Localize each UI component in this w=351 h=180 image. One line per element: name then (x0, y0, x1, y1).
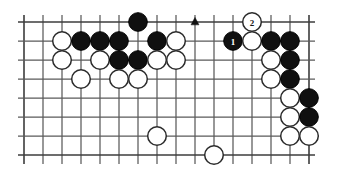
stone-white[interactable] (300, 127, 319, 146)
stone-white[interactable] (53, 51, 72, 70)
stone-white[interactable] (281, 89, 300, 108)
stone-body (300, 89, 319, 108)
stone-black[interactable] (262, 32, 281, 51)
stone-body (243, 32, 262, 51)
stone-body (167, 32, 186, 51)
stone-white[interactable] (281, 127, 300, 146)
stone-white[interactable] (148, 51, 167, 70)
stone-white[interactable] (129, 70, 148, 89)
stone-body (281, 89, 300, 108)
stone-body (281, 51, 300, 70)
stone-body (148, 32, 167, 51)
stones-layer[interactable]: 12 (53, 13, 319, 165)
stone-white[interactable] (262, 51, 281, 70)
stone-body (148, 51, 167, 70)
stone-body (129, 70, 148, 89)
stone-black[interactable] (91, 32, 110, 51)
goban-canvas[interactable]: 12 (0, 0, 351, 180)
go-board-diagram: 12 (0, 0, 351, 180)
stone-body (91, 51, 110, 70)
stone-white[interactable] (53, 32, 72, 51)
stone-move-number: 2 (250, 18, 255, 28)
stone-body (262, 70, 281, 89)
stone-white[interactable] (243, 32, 262, 51)
stone-black[interactable] (281, 70, 300, 89)
stone-body (72, 32, 91, 51)
stone-white[interactable] (148, 127, 167, 146)
stone-black[interactable] (148, 32, 167, 51)
stone-body (281, 70, 300, 89)
stone-white[interactable] (110, 70, 129, 89)
stone-move-number: 1 (231, 37, 236, 47)
stone-black[interactable] (129, 13, 148, 32)
stone-body (148, 127, 167, 146)
stone-body (281, 32, 300, 51)
stone-body (281, 108, 300, 127)
stone-body (129, 51, 148, 70)
stone-white[interactable] (91, 51, 110, 70)
stone-body (281, 127, 300, 146)
stone-body (110, 51, 129, 70)
triangle-marker-icon (191, 17, 199, 24)
stone-body (129, 13, 148, 32)
stone-black[interactable] (300, 89, 319, 108)
stone-white[interactable] (281, 108, 300, 127)
stone-white[interactable] (205, 146, 224, 165)
stone-black[interactable] (281, 32, 300, 51)
stone-body (110, 32, 129, 51)
move-markers (191, 17, 199, 24)
stone-white-numbered[interactable]: 2 (243, 13, 262, 32)
stone-black-numbered[interactable]: 1 (224, 32, 243, 51)
stone-black[interactable] (129, 51, 148, 70)
stone-white[interactable] (262, 70, 281, 89)
stone-black[interactable] (300, 108, 319, 127)
stone-body (300, 108, 319, 127)
stone-body (262, 32, 281, 51)
stone-body (53, 32, 72, 51)
stone-body (72, 70, 91, 89)
stone-white[interactable] (167, 32, 186, 51)
stone-black[interactable] (110, 32, 129, 51)
stone-black[interactable] (281, 51, 300, 70)
stone-body (110, 70, 129, 89)
stone-white[interactable] (167, 51, 186, 70)
stone-body (167, 51, 186, 70)
stone-body (300, 127, 319, 146)
stone-body (262, 51, 281, 70)
stone-white[interactable] (72, 70, 91, 89)
stone-black[interactable] (72, 32, 91, 51)
stone-black[interactable] (110, 51, 129, 70)
stone-body (53, 51, 72, 70)
stone-body (205, 146, 224, 165)
stone-body (91, 32, 110, 51)
